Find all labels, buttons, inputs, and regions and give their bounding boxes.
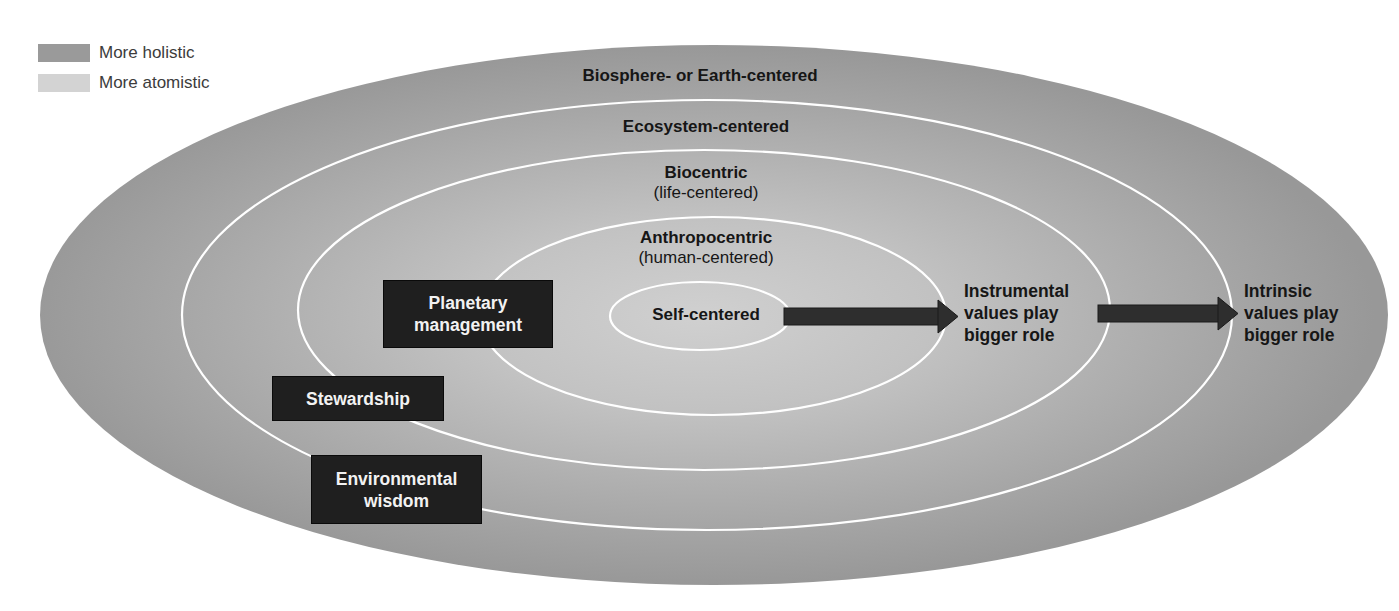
ring-label: Biosphere- or Earth-centered (582, 66, 817, 85)
label-intrinsic-values: Intrinsic values play bigger role (1244, 280, 1338, 346)
box-label: Stewardship (306, 388, 410, 410)
ring-sublabel: (life-centered) (654, 183, 759, 203)
side-label-line: bigger role (1244, 324, 1338, 346)
ring-label: Anthropocentric (638, 228, 773, 248)
box-label: Environmental (336, 468, 458, 490)
box-environmental-wisdom: Environmental wisdom (311, 455, 482, 524)
box-label: wisdom (336, 490, 458, 512)
ring-sublabel: (human-centered) (638, 248, 773, 268)
box-planetary-management: Planetary management (383, 280, 553, 348)
label-anthropocentric: Anthropocentric (human-centered) (638, 228, 773, 268)
ring-label: Self-centered (652, 305, 760, 324)
side-label-line: Instrumental (964, 280, 1069, 302)
box-stewardship: Stewardship (272, 376, 444, 421)
side-label-line: values play (964, 302, 1069, 324)
label-biocentric: Biocentric (life-centered) (654, 163, 759, 203)
box-label: management (414, 314, 522, 336)
box-label: Planetary (414, 292, 522, 314)
side-label-line: values play (1244, 302, 1338, 324)
label-self-centered: Self-centered (652, 305, 760, 325)
label-ecosystem-centered: Ecosystem-centered (623, 117, 789, 137)
label-biosphere-centered: Biosphere- or Earth-centered (582, 66, 817, 86)
side-label-line: bigger role (964, 324, 1069, 346)
ring-label: Ecosystem-centered (623, 117, 789, 136)
ring-label: Biocentric (654, 163, 759, 183)
label-instrumental-values: Instrumental values play bigger role (964, 280, 1069, 346)
side-label-line: Intrinsic (1244, 280, 1338, 302)
